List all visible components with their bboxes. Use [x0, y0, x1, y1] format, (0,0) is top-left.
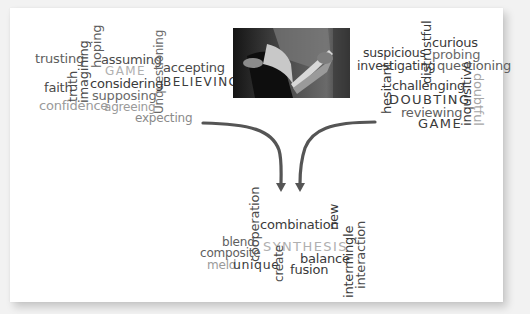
left-curved-arrow-icon — [203, 123, 286, 192]
word-fusion: fusion — [290, 263, 328, 276]
word-new: new — [327, 204, 340, 230]
word-create: create — [273, 245, 285, 282]
word-interaction: interaction — [354, 221, 367, 289]
right-curved-arrow-icon — [295, 122, 375, 192]
word-meld: meld — [207, 259, 236, 271]
